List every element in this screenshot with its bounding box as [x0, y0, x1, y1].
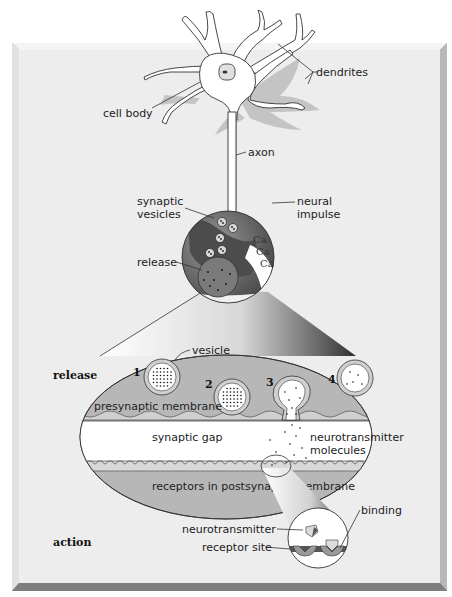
neurotransmitter-molecule [305, 457, 307, 459]
neurotransmitter-molecule [156, 378, 158, 380]
neurotransmitter-molecule [271, 464, 273, 466]
neurotransmitter-molecule [299, 397, 301, 399]
neurotransmitter-molecule [349, 371, 351, 373]
neurotransmitter-molecule [233, 388, 235, 390]
neurotransmitter-molecule [223, 391, 225, 393]
stage-release-label: release [53, 369, 97, 382]
neurotransmitter-molecule [167, 385, 169, 387]
neurotransmitter-molecule [237, 398, 239, 400]
neurotransmitter-molecule [285, 461, 287, 463]
release-zone-circle [198, 257, 238, 297]
postsynaptic-membrane [60, 461, 390, 471]
neurotransmitter-molecule [153, 371, 155, 373]
neurotransmitter-molecules-label: molecules [310, 444, 366, 457]
neurotransmitter-molecule [153, 382, 155, 384]
step-3-label: 3 [266, 376, 274, 389]
neurotransmitter-molecule [163, 385, 165, 387]
vesicle-1 [144, 359, 180, 395]
neurotransmitter-molecule [237, 402, 239, 404]
synaptic-vesicles-label: synaptic [137, 195, 183, 208]
calcium-label: Ca [260, 258, 274, 269]
neural-impulse-label: neural [297, 195, 332, 208]
neurotransmitter-molecule [237, 388, 239, 390]
release-label-terminal: release [137, 256, 177, 269]
neurotransmitter-molecule [167, 375, 169, 377]
nucleus [219, 64, 235, 80]
binding-label: binding [361, 504, 402, 517]
neurotransmitter-molecule [160, 375, 162, 377]
cell-body-label: cell body [103, 107, 153, 120]
neurotransmitter-molecule [233, 402, 235, 404]
receptor-site-label: receptor site [202, 541, 272, 554]
neurotransmitter-molecule [163, 382, 165, 384]
synaptic-gap-label: synaptic gap [152, 431, 223, 444]
step-1-label: 1 [133, 366, 141, 379]
neurotransmitter-molecule [288, 399, 290, 401]
neurotransmitter-molecule [160, 382, 162, 384]
neurotransmitter-molecule [286, 413, 288, 415]
neurotransmitter-molecule [167, 371, 169, 373]
neurotransmitter-molecule [226, 405, 228, 407]
neural-impulse-label: impulse [297, 208, 341, 221]
neurotransmitter-molecule [230, 402, 232, 404]
neurotransmitter-molecule [163, 368, 165, 370]
neurotransmitter-molecule [237, 405, 239, 407]
neurotransmitter-molecule [269, 439, 271, 441]
panel-bevel-bottom [12, 583, 447, 591]
neurotransmitter-molecule [233, 405, 235, 407]
neurotransmitter-molecule [160, 371, 162, 373]
neurotransmitter-molecule [357, 374, 359, 376]
neurotransmitter-molecule [295, 387, 297, 389]
neurotransmitter-molecules-label: neurotransmitter [310, 431, 404, 444]
neurotransmitter-molecule [156, 368, 158, 370]
neurotransmitter-molecule [233, 398, 235, 400]
panel-bevel-left [12, 43, 19, 591]
neurotransmitter-molecule [291, 407, 293, 409]
neurotransmitter-molecule [230, 395, 232, 397]
axon-label: axon [248, 146, 275, 159]
neurotransmitter-molecule [291, 424, 293, 426]
neurotransmitter-molecule [160, 378, 162, 380]
step-2-label: 2 [205, 378, 213, 391]
neurotransmitter-molecule [230, 388, 232, 390]
presynaptic-membrane-label: presynaptic membrane [94, 400, 222, 413]
neurotransmitter-molecule [237, 395, 239, 397]
neurotransmitter-molecule [233, 395, 235, 397]
dendrites-label: dendrites [316, 66, 368, 79]
synapse-diagram: dendrites cell body axon [0, 0, 452, 597]
neurotransmitter-molecule [170, 371, 172, 373]
neurotransmitter-molecule [301, 447, 303, 449]
neurotransmitter-molecule [289, 443, 291, 445]
vesicle-label: vesicle [192, 344, 230, 357]
neurotransmitter-molecule [153, 378, 155, 380]
neurotransmitter-molecule [299, 427, 301, 429]
neurotransmitter-molecule [170, 382, 172, 384]
neurotransmitter-molecule [361, 383, 363, 385]
neurotransmitter-molecule [170, 375, 172, 377]
neurotransmitter-molecule [275, 451, 277, 453]
step-4-label: 4 [328, 373, 336, 386]
stage-action-label: action [53, 536, 91, 549]
neurotransmitter-molecule [226, 402, 228, 404]
neurotransmitter-molecule [160, 368, 162, 370]
neurotransmitter-molecule [226, 395, 228, 397]
neurotransmitter-molecule [163, 371, 165, 373]
vesicle-4 [337, 360, 373, 396]
neurotransmitter-molecule [160, 385, 162, 387]
axon [228, 112, 236, 212]
neurotransmitter-molecule [293, 454, 295, 456]
neurotransmitter-molecule [240, 398, 242, 400]
neurotransmitter-molecule [352, 381, 354, 383]
neurotransmitter-molecule [153, 375, 155, 377]
neurotransmitter-molecule [230, 405, 232, 407]
neurotransmitter-molecule [240, 395, 242, 397]
panel-bevel-top [12, 43, 447, 50]
panel-bevel-right [440, 43, 447, 591]
neurotransmitter-molecule [163, 375, 165, 377]
neurotransmitter-molecule [284, 431, 286, 433]
neurotransmitter-molecule [167, 368, 169, 370]
neurotransmitter-molecule [284, 391, 286, 393]
neurotransmitter-molecule [230, 391, 232, 393]
neurotransmitter-molecule [233, 391, 235, 393]
neurotransmitter-molecule [237, 391, 239, 393]
